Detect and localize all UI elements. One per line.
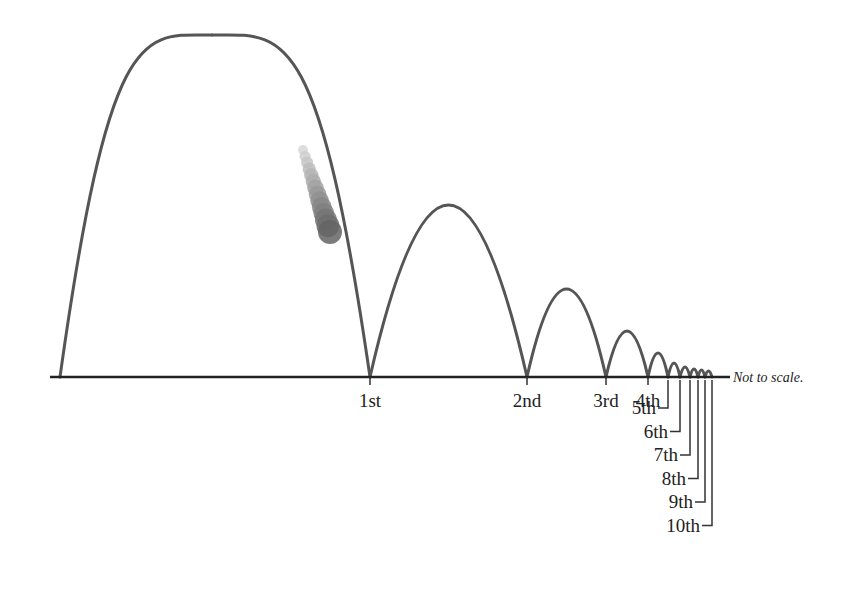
bounce-label-3: 3rd <box>593 390 619 411</box>
bounce-label-7: 7th <box>654 444 679 465</box>
ball-motion-trail <box>298 145 342 244</box>
bouncing-ball-diagram: 1st2nd3rd4th5th6th7th8th9th10th Not to s… <box>0 0 862 611</box>
trajectory-arc-0b <box>212 35 370 377</box>
ball <box>318 220 342 244</box>
bounce-label-5: 5th <box>632 397 657 418</box>
bounce-label-1: 1st <box>359 390 382 411</box>
bounce-label-6: 6th <box>644 421 669 442</box>
bounce-label-8: 8th <box>662 468 687 489</box>
trajectory-arcs <box>60 35 712 377</box>
bounce-label-9: 9th <box>669 491 694 512</box>
bounce-label-2: 2nd <box>513 390 542 411</box>
bounce-leader-10 <box>702 380 712 526</box>
bounce-leader-6 <box>670 380 680 432</box>
trajectory-arc-2 <box>527 289 606 377</box>
bounce-labels: 1st2nd3rd4th5th6th7th8th9th10th <box>359 377 712 536</box>
trajectory-arc-4 <box>648 353 668 377</box>
bounce-leader-7 <box>680 380 690 455</box>
bounce-label-10: 10th <box>666 515 700 536</box>
trajectory-arc-3 <box>606 331 648 377</box>
trajectory-arc-6 <box>680 367 690 377</box>
trajectory-arc-1 <box>370 205 527 377</box>
trajectory-arc-5 <box>668 363 680 377</box>
bounce-leader-9 <box>695 380 705 502</box>
not-to-scale-note: Not to scale. <box>732 370 803 385</box>
trajectory-arc-0a <box>60 35 212 377</box>
